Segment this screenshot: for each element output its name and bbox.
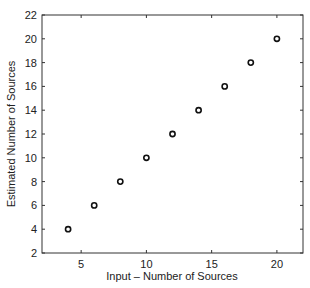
x-tick-label: 15 (206, 258, 218, 270)
y-tick-label: 18 (25, 57, 37, 69)
data-point-marker (196, 108, 201, 113)
y-tick-label: 4 (31, 223, 37, 235)
y-axis-label: Estimated Number of Sources (5, 60, 17, 207)
x-axis-label: Input – Number of Sources (106, 270, 238, 282)
x-tick-label: 10 (140, 258, 152, 270)
axes-frame (42, 15, 303, 253)
data-point-marker (248, 60, 253, 65)
y-tick-label: 2 (31, 247, 37, 259)
y-tick-label: 6 (31, 199, 37, 211)
y-axis-ticks: 246810121416182022 (25, 9, 303, 259)
data-point-marker (170, 131, 175, 136)
data-points (66, 36, 280, 232)
y-tick-label: 10 (25, 152, 37, 164)
data-point-marker (144, 155, 149, 160)
y-tick-label: 22 (25, 9, 37, 21)
y-tick-label: 12 (25, 128, 37, 140)
data-point-marker (222, 84, 227, 89)
data-point-marker (118, 179, 123, 184)
x-tick-label: 20 (271, 258, 283, 270)
data-point-marker (92, 203, 97, 208)
y-tick-label: 14 (25, 104, 37, 116)
y-tick-label: 16 (25, 80, 37, 92)
x-tick-label: 5 (78, 258, 84, 270)
data-point-marker (274, 36, 279, 41)
plot-area (42, 15, 303, 253)
x-axis-ticks: 5101520 (78, 15, 283, 270)
scatter-chart: 5101520 246810121416182022 Input – Numbe… (0, 0, 310, 288)
y-tick-label: 8 (31, 176, 37, 188)
y-tick-label: 20 (25, 33, 37, 45)
data-point-marker (66, 227, 71, 232)
